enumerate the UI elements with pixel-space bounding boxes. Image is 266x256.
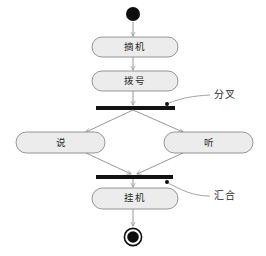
action-node-dial[interactable]: 拨号 (92, 71, 178, 91)
join-annotation-label: 汇合 (214, 189, 235, 201)
action-hangup-label: 挂机 (124, 192, 145, 203)
action-node-speak[interactable]: 说 (16, 132, 105, 153)
edge-fork-to-speak (86, 110, 133, 132)
fork-bar[interactable] (96, 106, 175, 110)
edge-listen-to-join (137, 153, 183, 174)
final-node[interactable] (124, 228, 141, 245)
action-node-listen[interactable]: 听 (164, 132, 253, 153)
activity-diagram-canvas: 摘机 拨号 分叉 说 听 (0, 0, 266, 256)
fork-annotation-leader (169, 95, 210, 103)
action-speak-label: 说 (56, 137, 67, 148)
action-pickup-label: 摘机 (124, 41, 145, 52)
action-dial-label: 拨号 (124, 75, 145, 86)
fork-annotation-label: 分叉 (214, 89, 235, 100)
action-listen-label: 听 (204, 137, 215, 148)
action-node-hangup[interactable]: 挂机 (92, 188, 178, 209)
action-node-pickup[interactable]: 摘机 (92, 37, 178, 57)
activity-diagram-svg: 摘机 拨号 分叉 说 听 (0, 0, 266, 256)
initial-node[interactable] (126, 7, 140, 21)
fork-annotation-anchor-dot (165, 102, 169, 106)
edge-speak-to-join (86, 153, 131, 174)
edge-fork-to-listen (133, 110, 183, 132)
join-bar[interactable] (96, 175, 173, 179)
final-node-core (127, 231, 139, 243)
